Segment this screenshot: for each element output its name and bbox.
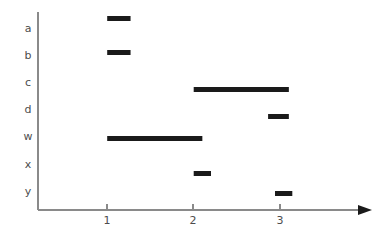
y-category-labels: a b c d w x y xyxy=(24,22,33,198)
y-label-c: c xyxy=(25,76,31,89)
x-tick-label-2: 2 xyxy=(190,214,197,227)
y-label-a: a xyxy=(25,22,32,35)
y-label-b: b xyxy=(25,49,32,62)
bar-c xyxy=(194,87,289,92)
gantt-chart: 1 2 3 a b c d w x y xyxy=(0,0,389,248)
y-label-w: w xyxy=(24,130,33,143)
bar-d xyxy=(268,114,289,119)
x-tick-marks xyxy=(107,204,280,210)
chart-canvas: 1 2 3 a b c d w x y xyxy=(0,0,389,248)
x-tick-labels: 1 2 3 xyxy=(104,214,284,227)
y-label-x: x xyxy=(25,158,32,171)
bar-b xyxy=(107,50,130,55)
y-label-d: d xyxy=(25,103,32,116)
x-tick-label-1: 1 xyxy=(104,214,111,227)
y-label-y: y xyxy=(25,185,32,198)
x-axis-arrow-icon xyxy=(358,205,372,215)
x-tick-label-3: 3 xyxy=(277,214,284,227)
bar-y xyxy=(275,191,292,196)
bar-series xyxy=(107,16,292,196)
bar-x xyxy=(194,171,211,176)
bar-w xyxy=(107,136,202,141)
bar-a xyxy=(107,16,130,21)
